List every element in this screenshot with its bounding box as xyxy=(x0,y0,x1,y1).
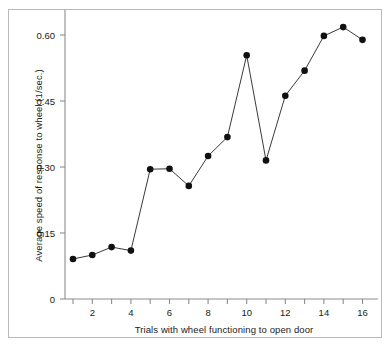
y-tick-label: 0.15 xyxy=(9,228,55,239)
data-point xyxy=(205,153,212,160)
data-series-line xyxy=(73,27,363,259)
chart-figure: Average speed of response to wheel (1/se… xyxy=(0,0,391,347)
data-point xyxy=(359,37,366,44)
data-point xyxy=(340,24,347,31)
data-point xyxy=(282,92,289,99)
x-tick-label: 6 xyxy=(167,307,172,318)
data-point xyxy=(70,256,77,263)
data-point xyxy=(301,67,308,74)
line-chart-plot xyxy=(9,10,381,337)
y-tick-label: 0.60 xyxy=(9,30,55,41)
data-point xyxy=(166,165,173,172)
data-point xyxy=(108,244,115,251)
data-point xyxy=(263,157,270,164)
x-axis-title: Trials with wheel functioning to open do… xyxy=(69,324,379,335)
x-tick-label: 14 xyxy=(319,307,330,318)
y-tick-label: 0.30 xyxy=(9,162,55,173)
data-point xyxy=(186,183,193,190)
data-point xyxy=(321,33,328,40)
data-point xyxy=(224,134,231,141)
x-tick-label: 2 xyxy=(90,307,95,318)
x-tick-label: 4 xyxy=(128,307,133,318)
y-tick-label: 0 xyxy=(9,294,55,305)
x-tick-label: 10 xyxy=(241,307,252,318)
data-point xyxy=(147,166,154,173)
data-point xyxy=(89,252,96,259)
x-tick-label: 12 xyxy=(280,307,291,318)
x-tick-label: 8 xyxy=(205,307,210,318)
x-tick-label: 16 xyxy=(357,307,368,318)
data-point-markers xyxy=(70,24,366,262)
data-point xyxy=(128,247,135,254)
y-tick-label: 0.45 xyxy=(9,96,55,107)
data-point xyxy=(243,52,250,59)
axes-group xyxy=(60,10,378,304)
chart-frame: Average speed of response to wheel (1/se… xyxy=(8,9,382,338)
